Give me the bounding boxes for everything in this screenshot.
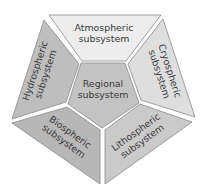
atmospheric-label-line1: Atmospheric bbox=[75, 22, 134, 33]
regional-label-line2: subsystem bbox=[78, 89, 129, 100]
pentagon-diagram: Atmospheric subsystem Cryospheric subsys… bbox=[0, 0, 202, 192]
regional-label-line1: Regional bbox=[83, 78, 123, 89]
segment-biospheric: Biospheric subsystem bbox=[12, 107, 100, 184]
atmospheric-label-line2: subsystem bbox=[79, 33, 130, 44]
